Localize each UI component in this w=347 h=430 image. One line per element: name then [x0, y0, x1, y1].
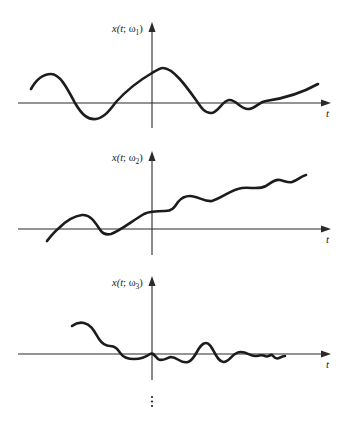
x-axis-label: t: [326, 233, 330, 245]
panel-2: x(t; ω2) t: [18, 151, 331, 255]
random-process-sample-functions-figure: x(t; ω1) t x(t; ω2) t x(t; ω3) t: [0, 0, 347, 430]
ellipsis-dot-icon: [151, 400, 153, 402]
y-label-omega: ; ω: [123, 277, 136, 288]
x-axis-arrow-icon: [321, 100, 331, 107]
x-axis-label: t: [326, 107, 330, 119]
continuation-ellipsis: [151, 396, 153, 407]
x-axis-label: t: [326, 358, 330, 370]
y-label-omega: ; ω: [123, 152, 136, 163]
y-axis-label: x(t; ω3): [111, 277, 143, 291]
panel-1: x(t; ω1) t: [18, 22, 331, 128]
ellipsis-dot-icon: [151, 396, 153, 398]
y-axis-arrow-icon: [149, 151, 156, 161]
y-label-suffix: ): [139, 152, 143, 164]
x-axis-arrow-icon: [321, 351, 331, 358]
y-axis-label: x(t; ω2): [111, 152, 143, 166]
y-axis-arrow-icon: [149, 22, 156, 32]
sample-function-curve-3: [72, 323, 285, 363]
y-axis-arrow-icon: [149, 276, 156, 286]
sample-function-curve-2: [47, 175, 306, 241]
y-label-suffix: ): [139, 277, 143, 289]
panel-3: x(t; ω3) t: [18, 276, 331, 380]
ellipsis-dot-icon: [151, 405, 153, 407]
y-label-suffix: ): [139, 23, 143, 35]
y-label-omega: ; ω: [123, 23, 136, 34]
y-axis-label: x(t; ω1): [111, 23, 143, 37]
sample-function-curve-1: [31, 68, 318, 119]
x-axis-arrow-icon: [321, 226, 331, 233]
